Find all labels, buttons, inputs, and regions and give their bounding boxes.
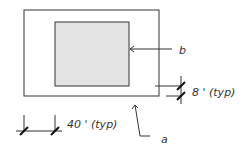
diagram-canvas: b 8 ' (typ) a 40 ' (typ) <box>0 0 248 160</box>
inner-rectangle <box>55 22 129 86</box>
border-dimension-label: 8 ' (typ) <box>192 86 235 99</box>
callout-a-arrow <box>132 105 150 136</box>
callout-b-label: b <box>179 44 186 57</box>
spacing-dimension <box>16 115 62 135</box>
spacing-dimension-label: 40 ' (typ) <box>67 118 117 131</box>
callout-a-label: a <box>161 133 168 146</box>
